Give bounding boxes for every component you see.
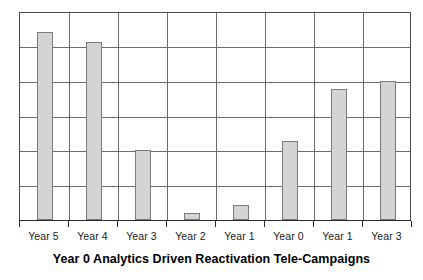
x-axis-tick xyxy=(215,221,216,227)
x-axis-label: Year 2 xyxy=(166,230,215,242)
chart-title: Year 0 Analytics Driven Reactivation Tel… xyxy=(0,252,423,266)
x-axis-tick xyxy=(68,221,69,227)
x-axis-tick xyxy=(19,221,20,227)
bar xyxy=(282,141,298,220)
x-axis-tick xyxy=(166,221,167,227)
category-separator xyxy=(363,13,364,220)
bar xyxy=(135,150,151,220)
category-separator xyxy=(314,13,315,220)
x-axis-tick xyxy=(313,221,314,227)
gridline xyxy=(20,151,410,152)
plot-area xyxy=(19,12,411,221)
bar xyxy=(37,32,53,220)
bar xyxy=(331,89,347,220)
gridline xyxy=(20,117,410,118)
category-separator xyxy=(167,13,168,220)
x-axis-label: Year 4 xyxy=(68,230,117,242)
x-axis-tick xyxy=(362,221,363,227)
x-axis-tick xyxy=(411,221,412,227)
x-axis-label: Year 0 xyxy=(264,230,313,242)
category-separator xyxy=(265,13,266,220)
category-separator xyxy=(216,13,217,220)
gridline xyxy=(20,82,410,83)
x-axis-tick xyxy=(264,221,265,227)
x-axis-label: Year 1 xyxy=(215,230,264,242)
x-axis-label: Year 5 xyxy=(19,230,68,242)
category-separator xyxy=(118,13,119,220)
bar xyxy=(380,81,396,220)
bar xyxy=(86,42,102,220)
bar xyxy=(233,205,249,220)
category-separator xyxy=(69,13,70,220)
x-axis-label: Year 3 xyxy=(117,230,166,242)
bar-chart-figure: Year 0 Analytics Driven Reactivation Tel… xyxy=(0,0,423,280)
x-axis-label: Year 3 xyxy=(362,230,411,242)
x-axis-tick xyxy=(117,221,118,227)
x-axis-label: Year 1 xyxy=(313,230,362,242)
gridline xyxy=(20,47,410,48)
bar xyxy=(184,213,200,220)
gridline xyxy=(20,186,410,187)
